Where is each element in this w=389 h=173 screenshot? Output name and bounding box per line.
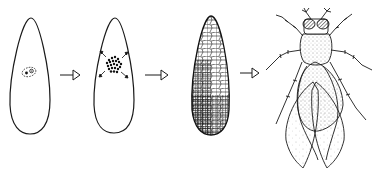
egg-with-nucleus-icon — [10, 18, 50, 134]
fruit-fly-icon — [266, 8, 372, 168]
development-diagram — [0, 0, 389, 173]
arrow-icon — [240, 68, 259, 78]
arrow-icon — [145, 70, 168, 80]
arrow-icon — [60, 70, 80, 80]
egg-cellularized-icon — [185, 10, 235, 140]
egg-with-dividing-nuclei-icon — [94, 18, 134, 133]
